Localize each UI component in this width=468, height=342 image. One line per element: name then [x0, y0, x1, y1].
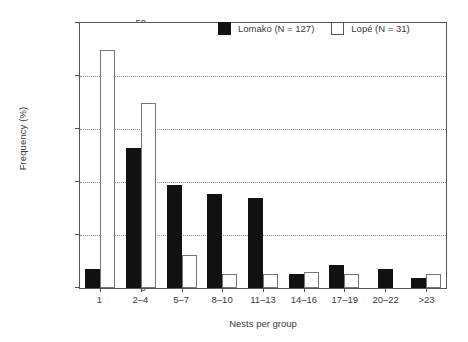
- x-axis-tick-labels: 12–45–78–1011–1314–1617–1920–22>23: [79, 294, 447, 305]
- y-axis-title: Frequency (%): [17, 59, 28, 219]
- bar: [100, 50, 115, 289]
- bar-group: [202, 23, 243, 288]
- bar-chart-figure: Frequency (%) 01020304050 12–45–78–1011–…: [0, 0, 468, 342]
- x-axis-tick-label: 2–4: [120, 294, 161, 305]
- legend-entry: Lopé (N = 31): [331, 22, 409, 35]
- x-axis-tick-mark: [182, 288, 183, 292]
- bar: [141, 103, 156, 289]
- bar: [411, 278, 426, 288]
- bar: [182, 255, 197, 288]
- bar-group: [365, 23, 406, 288]
- bar: [167, 185, 182, 288]
- bar: [304, 272, 319, 288]
- x-axis-title: Nests per group: [79, 318, 447, 329]
- x-axis-tick-mark: [222, 288, 223, 292]
- bar: [126, 148, 141, 288]
- bar-group: [80, 23, 121, 288]
- bar-group: [121, 23, 162, 288]
- bar: [426, 274, 441, 288]
- x-axis-tick-label: 8–10: [202, 294, 243, 305]
- legend-label: Lopé (N = 31): [351, 23, 409, 34]
- x-axis-tick-label: 1: [79, 294, 120, 305]
- legend-entry: Lomako (N = 127): [218, 22, 314, 35]
- bar: [329, 265, 344, 288]
- x-axis-tick-label: 5–7: [161, 294, 202, 305]
- x-axis-tick-label: >23: [406, 294, 447, 305]
- bar-series-container: [80, 23, 446, 288]
- plot-area: [79, 22, 447, 289]
- bar: [222, 274, 237, 288]
- bar-group: [283, 23, 324, 288]
- legend: Lomako (N = 127)Lopé (N = 31): [218, 22, 410, 35]
- bar: [207, 194, 222, 288]
- bar: [85, 269, 100, 288]
- x-axis-tick-label: 20–22: [365, 294, 406, 305]
- x-axis-tick-label: 11–13: [243, 294, 284, 305]
- x-axis-tick-mark: [141, 288, 142, 292]
- legend-swatch: [218, 22, 231, 35]
- x-axis-tick-mark: [426, 288, 427, 292]
- x-axis-tick-mark: [385, 288, 386, 292]
- x-axis-tick-mark: [304, 288, 305, 292]
- legend-label: Lomako (N = 127): [238, 23, 314, 34]
- bar: [248, 198, 263, 288]
- legend-swatch: [331, 22, 344, 35]
- bar: [289, 274, 304, 288]
- x-axis-tick-label: 17–19: [324, 294, 365, 305]
- x-axis-tick-mark: [263, 288, 264, 292]
- bar: [344, 274, 359, 288]
- bar: [263, 274, 278, 288]
- bar-group: [243, 23, 284, 288]
- x-axis-tick-mark: [100, 288, 101, 292]
- x-axis-tick-mark: [344, 288, 345, 292]
- bar-group: [405, 23, 446, 288]
- bar-group: [161, 23, 202, 288]
- bar: [378, 269, 393, 288]
- x-axis-tick-label: 14–16: [283, 294, 324, 305]
- bar-group: [324, 23, 365, 288]
